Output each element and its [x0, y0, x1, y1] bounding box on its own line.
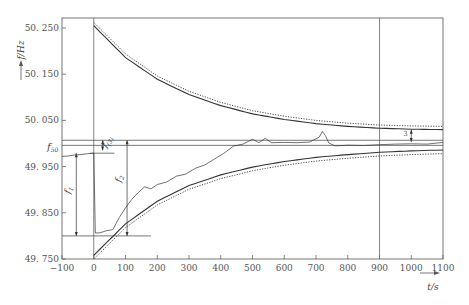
frequency-chart: f1f2f(3)3 −10001002003004005006007008009… [0, 0, 469, 305]
plot-border [62, 18, 443, 259]
x-tick-label: 900 [371, 263, 388, 273]
f50-label: f50 [46, 141, 59, 153]
y-tick-label: 49. 850 [25, 208, 60, 218]
y-tick-label: 50. 250 [25, 23, 60, 33]
y-tick-label: 50. 150 [25, 69, 60, 79]
envelope-dotted [94, 23, 443, 127]
x-tick-label: 100 [117, 263, 134, 273]
y-axis: 50. 25050. 15050. 05049. 95049. 85049. 7… [25, 23, 66, 264]
f3-label: f(3) [99, 133, 115, 150]
x-axis-title: t/s [427, 282, 439, 292]
y-tick-label: 49. 750 [25, 254, 60, 264]
envelope-solid [94, 150, 443, 255]
x-axis: −100010020030040050060070080090010001100 [50, 255, 455, 273]
envelope-dotted [94, 154, 443, 259]
f1-arrow-icon [75, 153, 78, 236]
y-tick-label: 50. 050 [25, 115, 60, 125]
y-axis-arrow-icon [19, 60, 23, 80]
y-tick-label: 49. 950 [25, 162, 60, 172]
x-tick-label: 300 [180, 263, 197, 273]
x-tick-label: 0 [91, 263, 97, 273]
x-tick-label: 600 [276, 263, 293, 273]
f2-label: f2 [113, 174, 126, 185]
x-tick-label: −100 [50, 263, 75, 273]
x-tick-label: 1000 [400, 263, 423, 273]
x-tick-label: 400 [212, 263, 229, 273]
series-layer [62, 23, 443, 260]
y-axis-title: f/Hz [16, 40, 26, 60]
x-tick-label: 800 [339, 263, 356, 273]
x-tick-label: 500 [244, 263, 261, 273]
x-tick-label: 200 [149, 263, 166, 273]
envelope-solid [94, 26, 443, 130]
x-tick-label: 700 [307, 263, 324, 273]
steady-state-label: 3 [403, 130, 407, 138]
reference-lines [62, 18, 443, 259]
plot-frame [62, 18, 443, 259]
f1-label: f1 [62, 185, 75, 196]
